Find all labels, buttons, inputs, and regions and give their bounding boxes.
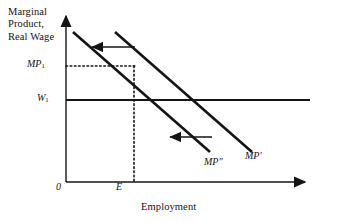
- x-axis-title: Employment: [141, 201, 196, 213]
- curve-label-mp-double-prime: MP″: [204, 156, 223, 168]
- y-axis-title-line-3: Real Wage: [8, 31, 54, 43]
- y-tick-label-w1: W1: [37, 92, 49, 105]
- origin-label: 0: [56, 181, 61, 193]
- x-tick-label-e: E: [116, 181, 122, 193]
- y-tick-label-mp1: MP1: [27, 58, 45, 71]
- curve-label-mp-prime: MP′: [245, 150, 262, 162]
- y-tick-mp1-sub: 1: [41, 62, 44, 69]
- mp-prime-curve: [115, 32, 252, 152]
- curve-mp-double-prime-mark: ″: [218, 156, 222, 167]
- curve-mp-prime-base: MP: [245, 150, 259, 161]
- y-axis-title-line-2: Product,: [8, 18, 54, 30]
- y-tick-w1-sub: 1: [45, 96, 48, 103]
- y-tick-mp1-base: MP: [27, 58, 41, 69]
- curve-mp-prime-mark: ′: [259, 150, 261, 161]
- curve-mp-double-prime-base: MP: [204, 156, 218, 167]
- y-axis-title-line-1: Marginal: [8, 6, 54, 18]
- economics-labor-market-figure: Marginal Product, Real Wage Employment M…: [0, 0, 338, 222]
- y-axis-title: Marginal Product, Real Wage: [8, 6, 54, 43]
- mp-double-prime-curve: [73, 32, 210, 152]
